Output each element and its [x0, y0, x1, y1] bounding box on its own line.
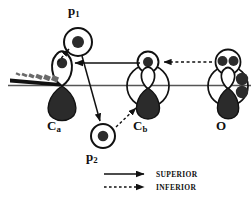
atom-o-orbital [208, 50, 248, 119]
label-o: O [216, 119, 226, 132]
arrow-p1-to-p2-superior [82, 56, 100, 121]
o-side-lone-pair-dot-upper [236, 73, 248, 85]
figure-canvas [0, 0, 251, 206]
label-cb-text: C [133, 118, 142, 133]
label-ca: Ca [47, 119, 61, 134]
label-o-text: O [216, 118, 226, 133]
o-lone-pair-dot-right [229, 56, 239, 66]
probe-p2 [91, 124, 115, 148]
label-ca-subscript: a [56, 124, 60, 134]
legend-label-superior: SUPERIOR [156, 170, 198, 179]
ca-upper-lobe-electron-dot [57, 58, 67, 68]
label-cb-subscript: b [142, 124, 147, 134]
o-lower-lobe-filled [217, 88, 238, 119]
cb-upper-orbital-dot [143, 57, 153, 67]
orbital-interaction-figure: p1 p2 Ca Cb O SUPERIOR INFERIOR [0, 0, 251, 206]
label-p2: p2 [86, 150, 98, 165]
ca-lower-lobe-filled [48, 86, 76, 121]
probe-p1 [64, 28, 92, 56]
cb-lower-lobe-filled [137, 88, 160, 119]
p1-center-dot [72, 36, 84, 48]
label-cb: Cb [133, 119, 147, 134]
o-lone-pair-dot-left [218, 56, 228, 66]
o-side-lone-pair-dot-lower [236, 86, 248, 98]
label-p1-subscript: 1 [75, 9, 79, 19]
p2-center-dot [98, 131, 109, 142]
label-p2-subscript: 2 [93, 155, 97, 165]
legend-label-inferior: INFERIOR [156, 183, 196, 192]
ca-hashed-wedge-bond [16, 73, 58, 80]
label-ca-text: C [47, 118, 56, 133]
label-p1: p1 [68, 4, 80, 19]
